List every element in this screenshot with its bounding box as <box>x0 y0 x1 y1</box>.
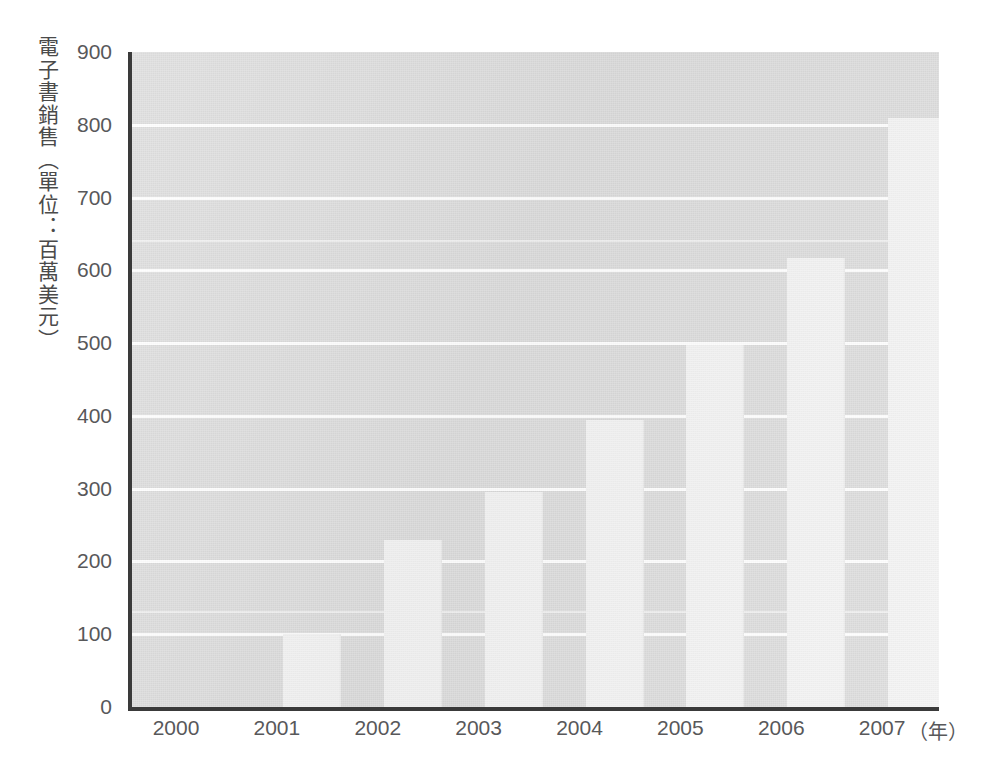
x-axis-tick-label: 2005 <box>657 716 704 740</box>
y-axis-tick-label: 800 <box>77 113 112 137</box>
y-axis-tick-label: 500 <box>77 331 112 355</box>
x-axis-tick-label: 2007 <box>859 716 906 740</box>
x-axis-unit-label: （年） <box>908 716 968 745</box>
y-axis-tick-label: 300 <box>77 477 112 501</box>
y-axis-title: 電子書銷售（單位：百萬美元） <box>22 36 58 456</box>
gridline <box>132 197 939 200</box>
bar <box>384 540 442 707</box>
x-axis-tick-label: 2004 <box>556 716 603 740</box>
x-axis-tick-label: 2001 <box>254 716 301 740</box>
bar <box>283 634 341 707</box>
x-axis-tick-label: 2000 <box>153 716 200 740</box>
x-axis-tick-label: 2002 <box>354 716 401 740</box>
bar <box>888 118 939 708</box>
gridline-faint <box>132 240 939 242</box>
bar-chart-figure: 電子書銷售（單位：百萬美元） 9008007006005004003002001… <box>0 0 989 772</box>
y-axis-tick-label: 0 <box>100 695 112 719</box>
y-axis-tick-label: 100 <box>77 622 112 646</box>
y-axis-tick-label: 400 <box>77 404 112 428</box>
x-axis-tick-label: 2003 <box>455 716 502 740</box>
bar <box>485 492 543 707</box>
plot-area <box>128 52 939 711</box>
x-axis-tick-label-group: 20002001200220032004200520062007（年） <box>128 716 988 756</box>
bar <box>586 420 644 707</box>
y-axis-tick-label: 900 <box>77 40 112 64</box>
bar <box>787 258 845 707</box>
y-axis-tick-label: 200 <box>77 549 112 573</box>
x-axis-tick-label: 2006 <box>758 716 805 740</box>
gridline <box>132 124 939 127</box>
bar <box>686 345 744 707</box>
y-axis-tick-label: 600 <box>77 258 112 282</box>
y-axis-tick-label: 700 <box>77 186 112 210</box>
y-axis-tick-label-group: 9008007006005004003002001000 <box>60 52 120 707</box>
